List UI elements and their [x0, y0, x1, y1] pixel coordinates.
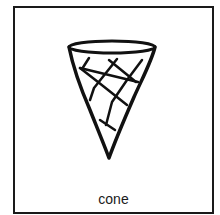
picture-card: cone [13, 6, 214, 214]
card-label: cone [15, 191, 212, 207]
ice-cream-cone-icon [15, 8, 212, 212]
